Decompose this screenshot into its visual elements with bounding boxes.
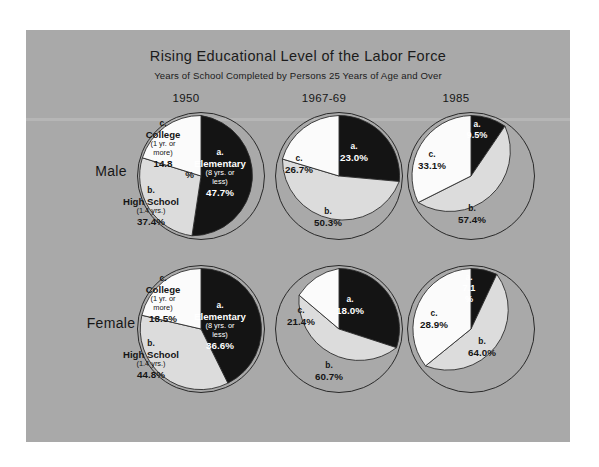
column-header-1967-69: 1967-69	[264, 92, 384, 104]
page-subtitle: Years of School Completed by Persons 25 …	[26, 70, 570, 81]
pie-graphic	[275, 265, 403, 393]
pie-svg	[276, 266, 402, 392]
pie-graphic	[407, 265, 535, 393]
pie-chart-female-1967-69: a. 18.0% b. 60.7% c. 21.4%	[264, 265, 414, 415]
pie-chart-female-1950: a. Elementary (8 yrs. or less) 36.6% b. …	[126, 265, 276, 415]
pie-chart-male-1950: a. Elementary (8 yrs. or less) 47.7% b. …	[126, 112, 276, 262]
column-header-1985: 1985	[396, 92, 516, 104]
pie-svg	[408, 113, 534, 239]
pie-svg	[408, 266, 534, 392]
slice-a	[339, 116, 400, 182]
column-header-1950: 1950	[126, 92, 246, 104]
page-title: Rising Educational Level of the Labor Fo…	[26, 48, 570, 64]
pie-graphic	[137, 112, 265, 240]
pie-svg	[276, 113, 402, 239]
pie-chart-male-1967-69: a. 23.0% b. 50.3% c. 26.7%	[264, 112, 414, 262]
chart-panel: Rising Educational Level of the Labor Fo…	[26, 30, 570, 442]
pie-svg	[138, 266, 264, 392]
pie-graphic	[275, 112, 403, 240]
pie-svg	[138, 113, 264, 239]
pie-graphic	[407, 112, 535, 240]
pie-chart-male-1985: a. 9.5% b. 57.4% c. 33.1%	[396, 112, 546, 262]
pie-graphic	[137, 265, 265, 393]
pie-chart-female-1985: a. 7.1 % b. 64.0% c. 28.9%	[396, 265, 546, 415]
